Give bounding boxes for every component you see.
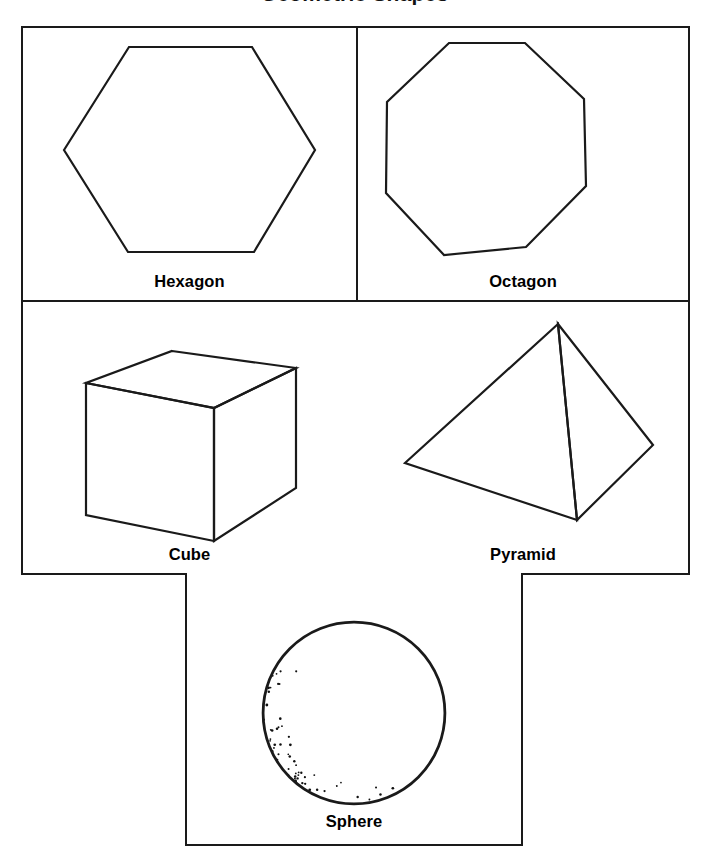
shape-cell-octagon[interactable]: Octagon <box>358 28 688 300</box>
octagon-icon <box>358 28 688 300</box>
sphere-icon <box>187 575 521 844</box>
shape-label-hexagon: Hexagon <box>23 272 356 291</box>
shape-cell-hexagon[interactable]: Hexagon <box>23 28 356 300</box>
shape-cell-pyramid[interactable]: Pyramid <box>358 302 688 573</box>
shape-cell-sphere[interactable]: Sphere <box>185 575 523 846</box>
shape-label-sphere: Sphere <box>187 812 521 831</box>
page-title: Geometric Shapes <box>0 0 709 6</box>
page-title-clipped: Geometric Shapes <box>0 0 709 8</box>
shape-label-cube: Cube <box>23 545 356 564</box>
hexagon-icon <box>23 28 356 300</box>
shapes-diagram-page: Geometric Shapes Hexagon Octagon <box>0 0 709 860</box>
shape-cell-cube[interactable]: Cube <box>23 302 356 573</box>
shape-label-pyramid: Pyramid <box>358 545 688 564</box>
shapes-grid: Hexagon Octagon <box>21 26 690 575</box>
pyramid-icon <box>358 302 688 573</box>
shape-label-octagon: Octagon <box>358 272 688 291</box>
cube-icon <box>23 302 356 573</box>
